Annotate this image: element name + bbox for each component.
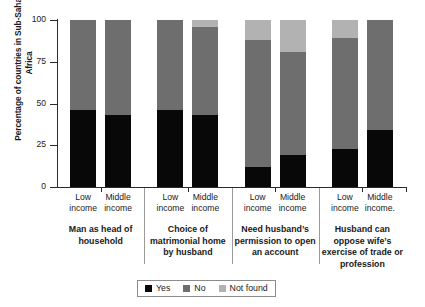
bar-segment-yes (70, 110, 96, 187)
y-tick-label: 75 (16, 57, 46, 66)
x-axis-label-line1: Middle (351, 192, 409, 203)
legend-item: Not found (219, 283, 268, 293)
chart-legend: YesNoNot found (137, 280, 276, 297)
bar-segment-no (192, 27, 218, 116)
group-label: Husband can oppose wife’s exercise of tr… (318, 224, 406, 270)
bar-segment-yes (157, 110, 183, 187)
bar-segment-yes (280, 155, 306, 187)
y-tick-mark (50, 104, 57, 105)
bar-segment-no (367, 20, 393, 130)
x-axis-label-line1: Middle (264, 192, 322, 203)
bar-segment-not-found (332, 20, 358, 38)
bar-stack (157, 20, 183, 187)
bar-segment-yes (105, 115, 131, 187)
x-axis-label-line1: Middle (176, 192, 234, 203)
y-tick-mark (50, 20, 57, 21)
y-tick-label: 0 (16, 182, 46, 191)
legend-swatch-icon (219, 285, 226, 292)
bar-stack (70, 20, 96, 187)
legend-swatch-icon (145, 285, 152, 292)
bar-segment-no (157, 20, 183, 110)
legend-label: No (194, 283, 205, 293)
bar-segment-not-found (192, 20, 218, 27)
y-tick-label: 100 (16, 15, 46, 24)
x-axis-label-line2: income (264, 203, 322, 214)
y-tick-mark (50, 145, 57, 146)
bar-segment-yes (367, 130, 393, 187)
bar-segment-yes (192, 115, 218, 187)
bar-stack (280, 20, 306, 187)
bar-segment-no (280, 52, 306, 156)
bar-segment-no (245, 40, 271, 167)
y-tick-label: 25 (16, 140, 46, 149)
group-label: Need husband’s permission to open an acc… (231, 224, 319, 259)
bar-segment-not-found (280, 20, 306, 52)
x-axis-label-line2: income. (351, 203, 409, 214)
legend-item: Yes (145, 283, 170, 293)
x-axis-label-line1: Middle (89, 192, 147, 203)
x-axis-label: Middleincome. (351, 192, 409, 214)
x-axis-label-line2: income (176, 203, 234, 214)
bar-stack (332, 20, 358, 187)
bar-segment-yes (245, 167, 271, 187)
x-axis-label-line2: income (89, 203, 147, 214)
bar-stack (192, 20, 218, 187)
bar-segment-no (105, 20, 131, 115)
plot-area (57, 20, 406, 187)
y-tick-mark (50, 187, 57, 188)
y-tick-mark (50, 62, 57, 63)
bar-segment-yes (332, 149, 358, 187)
bar-stack (105, 20, 131, 187)
bar-segment-no (70, 20, 96, 110)
x-axis-label: Middleincome (264, 192, 322, 214)
chart-figure: Percentage of countries in Sub-Saharan A… (0, 0, 425, 307)
x-axis-label: Middleincome (89, 192, 147, 214)
legend-swatch-icon (183, 285, 190, 292)
legend-label: Yes (156, 283, 170, 293)
x-axis-label: Middleincome (176, 192, 234, 214)
group-label: Man as head of household (57, 224, 145, 247)
y-tick-label: 50 (16, 99, 46, 108)
bar-segment-no (332, 38, 358, 148)
bar-stack (367, 20, 393, 187)
bar-segment-not-found (245, 20, 271, 40)
legend-label: Not found (230, 283, 268, 293)
legend-item: No (183, 283, 205, 293)
bar-stack (245, 20, 271, 187)
group-label: Choice of matrimonial home by husband (144, 224, 232, 259)
